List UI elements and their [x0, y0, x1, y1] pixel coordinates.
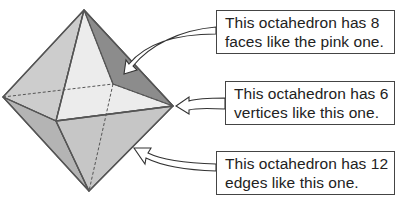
callout-vertices-line2: vertices like this one.	[234, 103, 394, 122]
arrow-to-face-icon	[124, 27, 216, 74]
arrow-to-vertex-icon	[176, 97, 225, 114]
callout-faces-line2: faces like the pink one.	[225, 32, 394, 51]
callout-edges-line2: edges like this one.	[225, 173, 394, 192]
callout-vertices: This octahedron has 6 vertices like this…	[225, 81, 395, 125]
callout-edges: This octahedron has 12 edges like this o…	[216, 151, 395, 195]
octahedron	[3, 10, 173, 191]
callout-faces: This octahedron has 8 faces like the pin…	[216, 10, 395, 54]
arrow-to-edge-icon	[134, 148, 216, 171]
callout-edges-line1: This octahedron has 12	[225, 154, 394, 173]
callout-vertices-line1: This octahedron has 6	[234, 84, 394, 103]
callout-faces-line1: This octahedron has 8	[225, 13, 394, 32]
